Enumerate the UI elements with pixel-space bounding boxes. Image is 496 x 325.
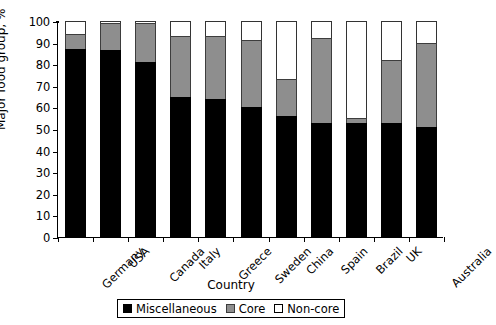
gray-square-icon bbox=[226, 304, 235, 313]
bar-segment-non-core bbox=[276, 21, 297, 79]
bar-segment-miscellaneous bbox=[170, 97, 191, 237]
x-tick-label: UK bbox=[405, 240, 426, 261]
x-tick-label: USA bbox=[127, 240, 154, 267]
bar-segment-non-core bbox=[65, 21, 86, 34]
bar-segment-core bbox=[100, 23, 121, 50]
bar-segment-core bbox=[65, 34, 86, 49]
legend-label: Non-core bbox=[287, 302, 339, 316]
bar-segment-core bbox=[205, 36, 226, 99]
bar-segment-miscellaneous bbox=[346, 123, 367, 237]
x-tick-label: Brazil bbox=[375, 240, 408, 273]
bar-segment-non-core bbox=[170, 21, 191, 36]
y-tick-label: 0 bbox=[43, 231, 50, 245]
bar-segment-core bbox=[170, 36, 191, 96]
bar-segment-miscellaneous bbox=[416, 127, 437, 237]
bar-segment-miscellaneous bbox=[276, 116, 297, 237]
legend-item-miscellaneous[interactable]: Miscellaneous bbox=[123, 302, 217, 316]
legend-item-core[interactable]: Core bbox=[226, 302, 266, 316]
y-tick-label: 70 bbox=[36, 80, 50, 94]
bar-usa[interactable] bbox=[100, 21, 121, 237]
x-tick bbox=[444, 237, 445, 242]
y-tick-label: 10 bbox=[36, 209, 50, 223]
bars-layer bbox=[58, 22, 443, 237]
y-axis-title: Major food group, % bbox=[0, 9, 8, 130]
bar-greece[interactable] bbox=[205, 21, 226, 237]
black-square-icon bbox=[123, 304, 132, 313]
y-tick-label: 100 bbox=[29, 15, 50, 29]
bar-sweden[interactable] bbox=[241, 21, 262, 237]
bar-segment-non-core bbox=[346, 21, 367, 118]
y-tick-label: 60 bbox=[36, 101, 50, 115]
bar-uk[interactable] bbox=[381, 21, 402, 237]
chart-legend: Miscellaneous Core Non-core bbox=[117, 299, 345, 318]
bar-segment-miscellaneous bbox=[65, 49, 86, 237]
plot-area: 0102030405060708090100 bbox=[57, 22, 443, 238]
bar-australia[interactable] bbox=[416, 21, 437, 237]
y-tick-label: 40 bbox=[36, 145, 50, 159]
bar-brazil[interactable] bbox=[346, 21, 367, 237]
bar-segment-non-core bbox=[241, 21, 262, 40]
legend-label: Core bbox=[239, 302, 266, 316]
y-tick-label: 90 bbox=[36, 37, 50, 51]
y-tick-label: 30 bbox=[36, 166, 50, 180]
bar-italy[interactable] bbox=[170, 21, 191, 237]
bar-segment-miscellaneous bbox=[241, 107, 262, 237]
bar-segment-miscellaneous bbox=[311, 123, 332, 237]
bar-china[interactable] bbox=[276, 21, 297, 237]
legend-item-non-core[interactable]: Non-core bbox=[274, 302, 339, 316]
bar-segment-miscellaneous bbox=[205, 99, 226, 237]
bar-spain[interactable] bbox=[311, 21, 332, 237]
bar-segment-miscellaneous bbox=[381, 123, 402, 237]
bar-segment-non-core bbox=[381, 21, 402, 60]
bar-segment-non-core bbox=[416, 21, 437, 43]
y-tick-label: 80 bbox=[36, 58, 50, 72]
bar-canada[interactable] bbox=[135, 21, 156, 237]
bar-segment-miscellaneous bbox=[100, 50, 121, 237]
y-tick-label: 50 bbox=[36, 123, 50, 137]
bar-segment-core bbox=[241, 40, 262, 107]
bar-segment-core bbox=[311, 38, 332, 122]
bar-segment-core bbox=[135, 23, 156, 62]
white-square-icon bbox=[274, 304, 283, 313]
bar-segment-miscellaneous bbox=[135, 62, 156, 237]
bar-segment-non-core bbox=[205, 21, 226, 36]
legend-label: Miscellaneous bbox=[136, 302, 217, 316]
bar-segment-core bbox=[381, 60, 402, 123]
bar-segment-non-core bbox=[311, 21, 332, 38]
x-axis-title: Country bbox=[0, 278, 462, 292]
y-tick-label: 20 bbox=[36, 188, 50, 202]
bar-segment-core bbox=[416, 43, 437, 127]
x-tick-label: Spain bbox=[340, 240, 373, 273]
bar-segment-core bbox=[276, 79, 297, 116]
x-tick-label: Greece bbox=[237, 240, 276, 279]
bar-germany[interactable] bbox=[65, 21, 86, 237]
